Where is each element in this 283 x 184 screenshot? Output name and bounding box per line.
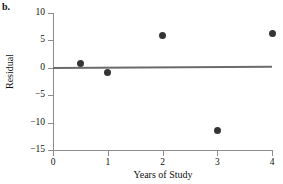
y-axis-tick	[48, 95, 53, 96]
x-axis-tick-label: 2	[151, 157, 175, 167]
x-axis-tick-label: 0	[41, 157, 65, 167]
x-axis-tick	[108, 151, 109, 156]
x-axis-tick-label: 1	[96, 157, 120, 167]
x-axis-tick	[217, 151, 218, 156]
y-axis-spine	[53, 13, 54, 151]
y-axis-tick-label-text: −15	[30, 145, 45, 155]
y-axis-tick	[48, 40, 53, 41]
y-axis-tick-label-text: 5	[40, 35, 45, 45]
scatter-point	[159, 32, 166, 39]
scatter-point	[214, 127, 221, 134]
zero-residual-fit-line	[53, 66, 272, 69]
x-axis-tick-label: 3	[205, 157, 229, 167]
scatter-point	[269, 30, 276, 37]
x-axis-tick	[53, 151, 54, 156]
x-axis-tick	[163, 151, 164, 156]
y-axis-title: Residual	[4, 42, 15, 102]
y-axis-tick	[48, 123, 53, 124]
y-axis-tick	[48, 13, 53, 14]
y-axis-tick-label-text: 0	[40, 63, 45, 73]
y-axis-tick-label-text: −5	[35, 90, 45, 100]
y-axis-tick-label: −15	[0, 145, 45, 155]
y-axis-tick-label-text: −10	[30, 118, 45, 128]
scatter-point	[104, 69, 111, 76]
y-axis-tick-label: −10	[0, 118, 45, 128]
y-axis-tick-label-text: 10	[36, 8, 46, 18]
y-axis-tick-label: 10	[0, 8, 45, 18]
x-axis-title: Years of Study	[53, 169, 273, 180]
x-axis-tick	[272, 151, 273, 156]
x-axis-tick-label: 4	[260, 157, 283, 167]
residual-plot-figure: b. 1050−5−10−15 01234 Years of Study Res…	[0, 0, 283, 184]
